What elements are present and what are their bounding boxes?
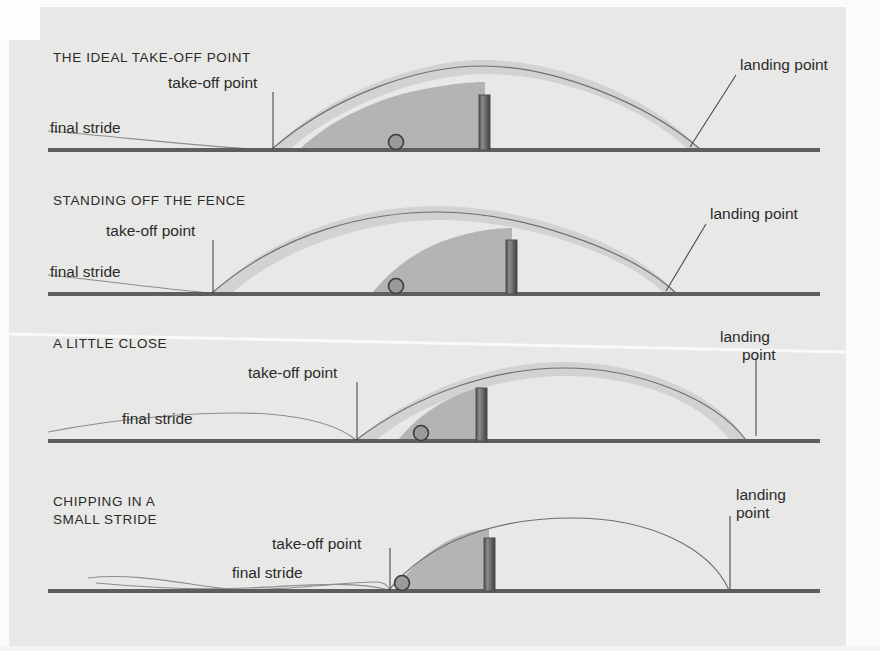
landing-label-line2: point xyxy=(736,504,770,521)
figure-sheet: THE IDEAL TAKE-OFF POINT take-off point … xyxy=(0,0,880,651)
final-stride-label: final stride xyxy=(232,564,303,581)
ball-marker xyxy=(395,576,410,591)
fence-post xyxy=(484,538,495,591)
takeoff-label: take-off point xyxy=(272,535,362,552)
panel-chipping-in-a-small-stride: CHIPPING IN A SMALL STRIDE take-off poin… xyxy=(0,0,880,651)
panel-title-line2: SMALL STRIDE xyxy=(53,512,157,527)
landing-label-line1: landing xyxy=(736,486,786,503)
panel-title-line1: CHIPPING IN A xyxy=(53,494,155,509)
